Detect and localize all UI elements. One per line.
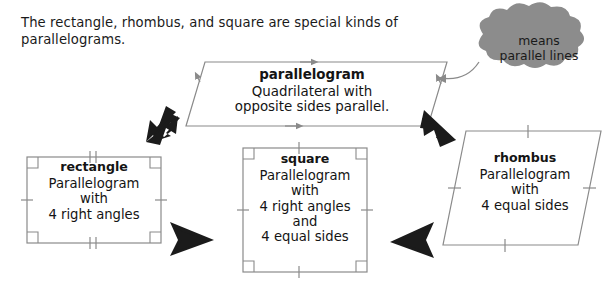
- callout-line-1: means: [487, 33, 591, 48]
- rectangle-line-3: 4 right angles: [32, 207, 156, 222]
- rhombus-line-2: with: [462, 182, 588, 197]
- square-line-1: Parallelogram: [247, 168, 363, 183]
- parallel-mark-left: [196, 74, 200, 82]
- parallel-mark-right: [437, 76, 441, 84]
- square-line-2: with: [247, 183, 363, 198]
- parallelogram-line-1: Quadrilateral with: [206, 84, 418, 100]
- rectangle-title: rectangle: [32, 160, 156, 175]
- rectangle-label: rectangle Parallelogram with 4 right ang…: [32, 160, 156, 222]
- rhombus-line-1: Parallelogram: [462, 167, 588, 182]
- square-label: square Parallelogram with 4 right angles…: [247, 152, 363, 245]
- intro-paragraph: The rectangle, rhombus, and square are s…: [21, 14, 421, 48]
- parallelogram-label: parallelogram Quadrilateral with opposit…: [206, 67, 418, 115]
- rectangle-line-2: with: [32, 191, 156, 206]
- parallelogram-line-2: opposite sides parallel.: [206, 99, 418, 115]
- rhombus-title: rhombus: [462, 151, 588, 166]
- square-title: square: [247, 152, 363, 167]
- diagram-canvas: The rectangle, rhombus, and square are s…: [0, 0, 604, 291]
- callout-text: means parallel lines: [487, 33, 591, 63]
- square-line-4: and: [247, 214, 363, 229]
- callout-line-2: parallel lines: [487, 48, 591, 63]
- arrow-parallelogram-to-rectangle: [150, 113, 180, 141]
- rhombus-label: rhombus Parallelogram with 4 equal sides: [462, 151, 588, 213]
- rhombus-line-3: 4 equal sides: [462, 198, 588, 213]
- square-line-5: 4 equal sides: [247, 229, 363, 244]
- square-line-3: 4 right angles: [247, 199, 363, 214]
- parallelogram-title: parallelogram: [206, 67, 418, 83]
- rectangle-line-1: Parallelogram: [32, 176, 156, 191]
